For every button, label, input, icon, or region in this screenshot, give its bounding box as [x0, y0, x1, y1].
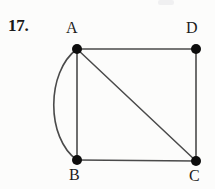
vertex-b-dot: [72, 155, 82, 165]
edge-b-c: [77, 160, 196, 161]
vertex-label-b: B: [69, 167, 80, 183]
vertex-label-a: A: [66, 20, 78, 36]
edge-a-b-curved: [54, 49, 77, 160]
figure-root: 17. A D B C: [0, 0, 215, 189]
vertex-d-dot: [191, 44, 201, 54]
graph-edges: [54, 49, 196, 161]
vertex-label-d: D: [186, 20, 198, 36]
vertex-c-dot: [191, 156, 201, 166]
graph-diagram: [0, 0, 215, 189]
vertex-a-dot: [72, 44, 82, 54]
edge-a-c-diagonal: [77, 49, 196, 161]
vertex-label-c: C: [189, 168, 200, 184]
